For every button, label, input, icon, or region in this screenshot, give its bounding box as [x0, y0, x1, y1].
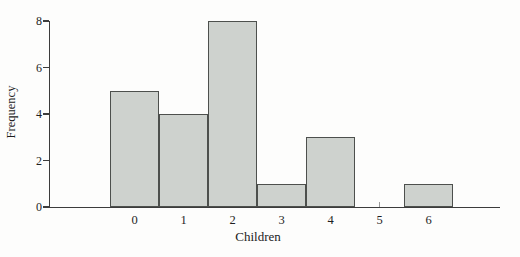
y-tick [43, 67, 49, 68]
y-tick-label: 8 [14, 14, 42, 28]
x-tick-label: 4 [319, 213, 343, 227]
bar-children-1 [159, 114, 208, 207]
x-tick-label: 5 [368, 213, 392, 227]
y-tick-label: 6 [14, 61, 42, 75]
x-tick-label: 0 [123, 213, 147, 227]
y-tick [43, 20, 49, 21]
x-axis-line [49, 207, 500, 208]
bar-children-4 [306, 137, 355, 207]
x-tick-label: 2 [221, 213, 245, 227]
y-tick-label: 0 [14, 200, 42, 214]
x-tick-label: 3 [270, 213, 294, 227]
y-tick-label: 4 [14, 107, 42, 121]
bar-children-2 [208, 21, 257, 207]
y-axis-line [49, 21, 50, 208]
bar-chart: Frequency Children 024680123456 [0, 0, 520, 257]
bar-children-6 [404, 184, 453, 207]
bar-children-0 [110, 91, 159, 207]
y-tick [43, 113, 49, 114]
x-tick-label: 1 [172, 213, 196, 227]
histogram-figure: Frequency Children 024680123456 [0, 0, 520, 257]
bar-children-3 [257, 184, 306, 207]
y-tick [43, 206, 49, 207]
x-axis-title: Children [188, 229, 328, 245]
y-tick [43, 160, 49, 161]
x-tick-label: 6 [417, 213, 441, 227]
y-tick-label: 2 [14, 154, 42, 168]
